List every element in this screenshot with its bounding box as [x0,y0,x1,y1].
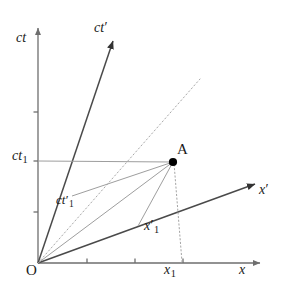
minkowski-diagram: ct ct′ ct1 ct′1 A x′1 x′ x x1 O [0,0,287,293]
light-cone-line [38,79,200,263]
ct-axis-label: ct [16,31,26,45]
ct-prime-1-projection-line [38,162,173,263]
ct-prime-axis-line [38,41,113,263]
event-point-A[interactable] [169,158,177,166]
event-A-label: A [177,142,188,157]
x-axis-label: x [239,263,245,277]
ct-prime-1-label: ct′1 [56,193,74,209]
ct1-projection-line [38,161,173,162]
diagram-canvas [0,0,287,293]
x1-tick-label: x1 [164,263,176,280]
x-prime-axis-label: x′ [259,183,269,197]
x-prime-1-label: x′1 [144,219,159,236]
origin-label: O [26,263,37,278]
ct1-tick-label: ct1 [12,149,28,166]
ct-prime-axis-label: ct′ [94,21,107,35]
